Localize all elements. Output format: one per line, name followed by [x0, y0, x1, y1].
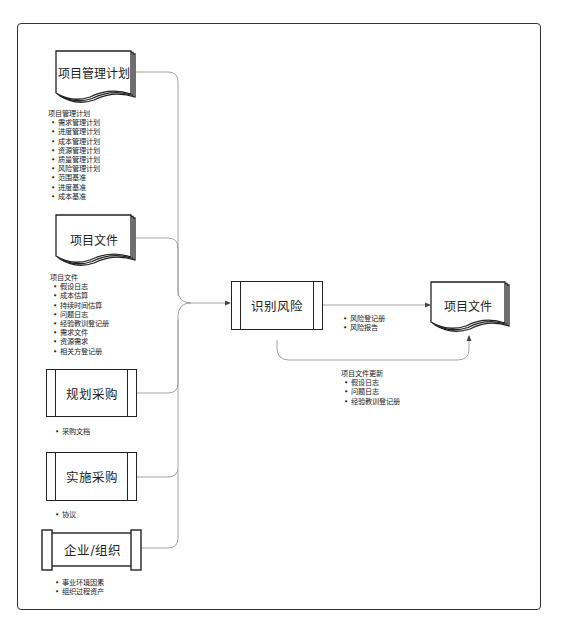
list-item: 风险报告	[340, 323, 385, 332]
list-item: 需求管理计划	[48, 118, 100, 127]
list-item: 相关方登记册	[50, 347, 109, 356]
list-item: 经验教训登记册	[50, 319, 109, 328]
list-item: 问题日志	[341, 387, 400, 396]
list-item: 需求文件	[50, 328, 109, 337]
list-item: 假设日志	[50, 282, 109, 291]
updates-list: 项目文件更新 假设日志 问题日志 经验教训登记册	[341, 369, 400, 406]
input-plan-procurement: 规划采购	[46, 369, 137, 417]
input-enterprise-org-list: 事业环境因素 组织过程资产	[52, 578, 104, 596]
list-item: 成本管理计划	[48, 137, 100, 146]
list-item: 组织过程资产	[52, 587, 104, 596]
output-project-documents: 项目文件	[431, 297, 505, 314]
input-conduct-procurement-list: 协议	[52, 510, 76, 519]
list-item: 经验教训登记册	[341, 397, 400, 406]
input-conduct-procurement: 实施采购	[46, 452, 137, 501]
list-item: 协议	[52, 510, 76, 519]
list-item: 质量管理计划	[48, 155, 100, 164]
list-item: 成本估算	[50, 291, 109, 300]
input-project-management-plan: 项目管理计划	[56, 64, 131, 81]
list-item: 风险登记册	[340, 314, 385, 323]
list-item: 风险管理计划	[48, 164, 100, 173]
input-project-documents-list: 项目文件 假设日志 成本估算 持续时间估算 问题日志 经验教训登记册 需求文件 …	[50, 273, 109, 356]
process-identify-risks: 识别风险	[231, 281, 323, 330]
list-item: 持续时间估算	[50, 301, 109, 310]
list-item: 事业环境因素	[52, 578, 104, 587]
input-project-management-plan-list: 项目管理计划 需求管理计划 进度管理计划 成本管理计划 资源管理计划 质量管理计…	[48, 109, 100, 201]
input-project-documents: 项目文件	[56, 231, 131, 248]
list-item: 成本基准	[48, 192, 100, 201]
list-item: 进度管理计划	[48, 127, 100, 136]
list-item: 进度基准	[48, 183, 100, 192]
list-item: 采购文档	[52, 427, 90, 436]
input-plan-procurement-list: 采购文档	[52, 427, 90, 436]
list-item: 资源需求	[50, 337, 109, 346]
list-title: 项目文件更新	[341, 369, 400, 378]
output-list: 风险登记册 风险报告	[340, 314, 385, 332]
list-title: 项目文件	[50, 273, 109, 282]
list-item: 范围基准	[48, 173, 100, 182]
list-item: 假设日志	[341, 378, 400, 387]
list-title: 项目管理计划	[48, 109, 100, 118]
list-item: 资源管理计划	[48, 146, 100, 155]
list-item: 问题日志	[50, 310, 109, 319]
input-enterprise-org: 企业/组织	[52, 533, 133, 566]
